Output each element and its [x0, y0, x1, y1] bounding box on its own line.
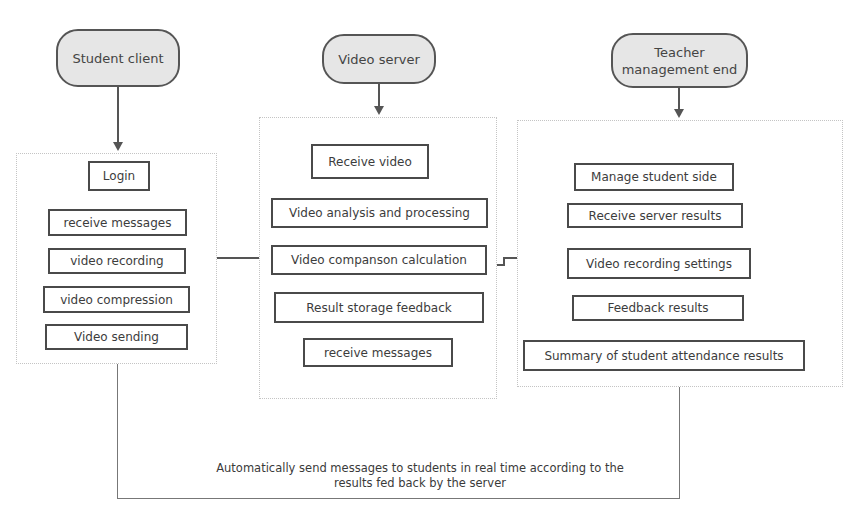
teacher-item-manage-student-side: Manage student side — [574, 163, 734, 191]
student-item-video-compression: video compression — [43, 286, 190, 313]
server-arrow-shaft — [378, 84, 380, 108]
item-label: Receive video — [328, 155, 412, 169]
teacher-item-attendance-summary: Summary of student attendance results — [523, 340, 805, 371]
teacher-item-video-recording-settings: Video recording settings — [567, 248, 751, 279]
item-label: Summary of student attendance results — [544, 349, 783, 363]
student-item-video-recording: video recording — [48, 248, 186, 274]
server-item-result-storage: Result storage feedback — [274, 292, 484, 323]
video-server-node: Video server — [322, 34, 436, 84]
teacher-item-feedback-results: Feedback results — [572, 295, 744, 321]
student-arrow-shaft — [117, 87, 119, 145]
item-label: Manage student side — [591, 170, 717, 184]
server-item-analysis-processing: Video analysis and processing — [271, 198, 488, 228]
student-arrow-head — [113, 142, 123, 151]
feedback-loop-bottom-line — [117, 498, 680, 499]
item-label: receive messages — [324, 346, 432, 360]
student-item-receive-messages: receive messages — [48, 209, 187, 236]
item-label: video compression — [60, 293, 173, 307]
teacher-management-node: Teacher management end — [611, 33, 748, 88]
item-label: Result storage feedback — [306, 301, 451, 315]
server-teacher-connector — [497, 250, 517, 270]
item-label: Feedback results — [607, 301, 708, 315]
teacher-label-line1: Teacher — [654, 44, 704, 61]
teacher-label-line2: management end — [622, 61, 738, 78]
video-server-label: Video server — [338, 51, 420, 68]
item-label: video recording — [70, 254, 163, 268]
feedback-caption-line1: Automatically send messages to students … — [160, 461, 680, 476]
server-item-receive-video: Receive video — [311, 144, 429, 179]
student-client-node: Student client — [56, 29, 180, 87]
feedback-loop-left-line — [117, 364, 118, 498]
teacher-arrow-head — [674, 109, 684, 118]
item-label: Video companson calculation — [291, 253, 467, 267]
student-client-label: Student client — [72, 50, 163, 67]
feedback-loop-caption: Automatically send messages to students … — [160, 461, 680, 491]
student-item-login: Login — [88, 161, 150, 191]
server-item-comparison-calculation: Video companson calculation — [271, 245, 487, 275]
item-label: receive messages — [64, 216, 172, 230]
student-item-video-sending: Video sending — [45, 324, 188, 350]
server-arrow-head — [374, 106, 384, 115]
item-label: Video analysis and processing — [289, 206, 470, 220]
item-label: Video recording settings — [586, 257, 732, 271]
item-label: Video sending — [74, 330, 159, 344]
item-label: Login — [103, 169, 135, 183]
teacher-arrow-shaft — [678, 88, 680, 111]
server-item-receive-messages: receive messages — [303, 338, 453, 367]
item-label: Receive server results — [589, 209, 722, 223]
student-server-connector — [217, 257, 259, 259]
teacher-item-receive-server-results: Receive server results — [567, 203, 743, 228]
feedback-caption-line2: results fed back by the server — [160, 476, 680, 491]
